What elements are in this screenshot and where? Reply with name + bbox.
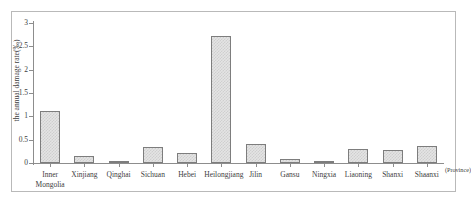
bar <box>211 36 231 163</box>
x-axis-tick <box>50 163 51 167</box>
x-axis-label: Shaanxi <box>410 170 444 180</box>
x-axis-tick <box>290 163 291 167</box>
x-axis-label: Hebei <box>170 170 204 180</box>
bar <box>143 147 163 163</box>
y-axis-tick-label: 2.5 <box>2 42 28 50</box>
x-axis-label: Sichuan <box>136 170 170 180</box>
bar <box>246 144 266 163</box>
bar <box>383 150 403 163</box>
x-axis-tick <box>324 163 325 167</box>
bar <box>109 161 129 163</box>
x-axis-label: Qinghai <box>102 170 136 180</box>
x-axis-tick <box>393 163 394 167</box>
x-axis-tick <box>84 163 85 167</box>
x-axis-unit-label: (Province) <box>445 166 471 173</box>
x-axis-label: Gansu <box>273 170 307 180</box>
y-axis-tick-label: 0 <box>2 159 28 167</box>
bar <box>417 146 437 163</box>
x-axis-tick <box>427 163 428 167</box>
x-axis-tick <box>256 163 257 167</box>
bar <box>40 111 60 163</box>
y-axis-tick-labels: 00.511.522.53 <box>0 0 28 204</box>
x-axis-label: Ningxia <box>307 170 341 180</box>
x-axis-tick <box>153 163 154 167</box>
x-axis-label: Heilongjiang <box>204 170 238 180</box>
bar <box>314 161 334 163</box>
x-axis-line <box>33 163 444 164</box>
y-axis-tick-label: 3 <box>2 19 28 27</box>
x-axis-label: Inner Mongolia <box>33 170 67 189</box>
y-axis-tick-label: 1.5 <box>2 89 28 97</box>
x-axis-label: Liaoning <box>341 170 375 180</box>
x-axis-label: Jilin <box>239 170 273 180</box>
bar <box>348 149 368 163</box>
x-axis-tick <box>358 163 359 167</box>
y-axis-tick-label: 1 <box>2 112 28 120</box>
bar <box>177 153 197 163</box>
x-axis-tick <box>187 163 188 167</box>
plot-area <box>33 23 444 163</box>
bar <box>74 156 94 163</box>
bar <box>280 159 300 163</box>
x-axis-label: Shanxi <box>376 170 410 180</box>
x-axis-tick <box>221 163 222 167</box>
x-axis-label: Xinjiang <box>67 170 101 180</box>
y-axis-tick-label: 2 <box>2 66 28 74</box>
y-axis-tick-label: 0.5 <box>2 136 28 144</box>
y-axis-tick <box>29 163 34 164</box>
x-axis-tick <box>119 163 120 167</box>
